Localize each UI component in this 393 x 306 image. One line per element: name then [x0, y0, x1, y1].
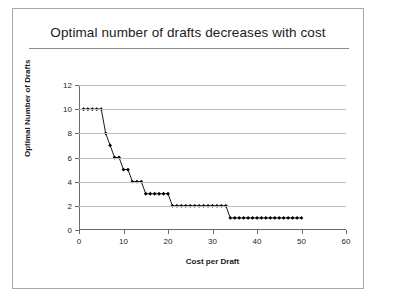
x-axis-tick-label: 60	[342, 237, 351, 246]
data-point-marker	[108, 144, 112, 148]
y-axis-tick	[75, 109, 79, 110]
y-axis-tick-label: 12	[63, 81, 72, 90]
plot-region: 0246810120102030405060	[79, 85, 346, 230]
data-point-marker	[126, 168, 130, 172]
y-axis-tick-label: 8	[68, 129, 72, 138]
x-axis-tick	[257, 230, 258, 234]
x-axis-tick-label: 20	[164, 237, 173, 246]
slide-frame: Optimal number of drafts decreases with …	[12, 8, 364, 289]
data-point-marker	[295, 216, 299, 220]
x-axis-tick	[124, 230, 125, 234]
data-point-marker	[291, 216, 295, 220]
title-divider	[29, 48, 349, 49]
y-axis-tick-label: 6	[68, 153, 72, 162]
x-axis-label: Cost per Draft	[79, 257, 346, 266]
y-axis-tick	[75, 158, 79, 159]
data-point-marker	[148, 192, 152, 196]
data-point-marker	[144, 192, 148, 196]
data-point-marker	[251, 216, 255, 220]
x-axis-tick	[302, 230, 303, 234]
y-axis-tick-label: 0	[68, 226, 72, 235]
data-point-marker	[242, 216, 246, 220]
y-axis-tick	[75, 182, 79, 183]
slide-title: Optimal number of drafts decreases with …	[27, 25, 349, 40]
y-axis-label: Optimal Number of Drafts	[23, 60, 32, 157]
data-point-marker	[162, 192, 166, 196]
data-point-marker	[286, 216, 290, 220]
data-point-marker	[237, 216, 241, 220]
gridline	[79, 133, 346, 134]
data-point-marker	[255, 216, 259, 220]
data-point-marker	[300, 216, 304, 220]
data-point-marker	[157, 192, 161, 196]
y-axis-tick-label: 10	[63, 105, 72, 114]
y-axis-tick-label: 2	[68, 201, 72, 210]
x-axis-tick	[213, 230, 214, 234]
data-point-marker	[153, 192, 157, 196]
data-point-marker	[260, 216, 264, 220]
data-point-marker	[246, 216, 250, 220]
y-axis-tick-label: 4	[68, 177, 72, 186]
chart-area: Optimal Number of Drafts Cost per Draft …	[13, 61, 365, 283]
data-point-marker	[282, 216, 286, 220]
y-axis-tick	[75, 133, 79, 134]
data-point-marker	[166, 192, 170, 196]
gridline	[79, 85, 346, 86]
gridline	[79, 158, 346, 159]
data-point-marker	[233, 216, 237, 220]
data-point-marker	[273, 216, 277, 220]
x-axis-tick	[79, 230, 80, 234]
x-axis-tick	[168, 230, 169, 234]
gridline	[79, 182, 346, 183]
gridline	[79, 109, 346, 110]
y-axis-tick	[75, 206, 79, 207]
x-axis-tick-label: 30	[208, 237, 217, 246]
data-point-marker	[122, 168, 126, 172]
x-axis-tick-label: 0	[77, 237, 81, 246]
x-axis-tick-label: 10	[119, 237, 128, 246]
gridline	[79, 206, 346, 207]
data-point-marker	[268, 216, 272, 220]
data-point-marker	[264, 216, 268, 220]
x-axis-tick-label: 40	[253, 237, 262, 246]
x-axis-tick	[346, 230, 347, 234]
data-point-marker	[277, 216, 281, 220]
x-axis-tick-label: 50	[297, 237, 306, 246]
data-point-marker	[228, 216, 232, 220]
y-axis-tick	[75, 85, 79, 86]
